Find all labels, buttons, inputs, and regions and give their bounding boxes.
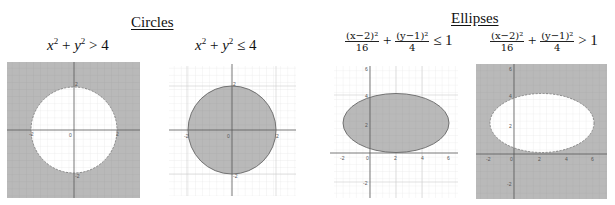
tick-label: 2 bbox=[75, 81, 78, 87]
tick-label: 0 bbox=[510, 156, 513, 162]
denominator: 16 bbox=[490, 42, 524, 53]
tick-label: 6 bbox=[447, 155, 450, 161]
tick-label: 2 bbox=[116, 131, 119, 137]
tick-label: -2 bbox=[363, 180, 368, 186]
var-y: y bbox=[74, 37, 81, 53]
tick-label: 2 bbox=[394, 155, 397, 161]
var-y: y bbox=[222, 37, 229, 53]
ellipses-heading: Ellipses bbox=[451, 10, 499, 27]
tick-label: -2 bbox=[29, 131, 34, 137]
circle-outside-graph: 0 2 -2 -2 2 bbox=[7, 62, 140, 198]
ellipse-inside-graph: -2 0 2 4 6 6 4 2 -2 bbox=[330, 64, 460, 200]
denominator: 16 bbox=[345, 42, 379, 53]
tick-label: 2 bbox=[276, 133, 279, 139]
tick-label: -2 bbox=[507, 181, 512, 187]
tick-label: 2 bbox=[233, 81, 236, 87]
equation-circle-outside: x2 + y2 > 4 bbox=[47, 36, 109, 54]
tick-label: 6 bbox=[365, 66, 368, 72]
tick-label: 6 bbox=[591, 156, 594, 162]
var-x: x bbox=[195, 37, 202, 53]
equation-ellipse-inside: (x−2)²16 + (y−1)²4 ≤ 1 bbox=[345, 30, 453, 53]
numerator: (x−2)² bbox=[345, 30, 379, 42]
operator: > 1 bbox=[578, 32, 598, 48]
tick-label: -2 bbox=[75, 173, 80, 179]
plus: + bbox=[58, 37, 74, 53]
operator: ≤ 4 bbox=[233, 37, 256, 53]
fraction-x: (x−2)²16 bbox=[490, 30, 524, 53]
shaded-region bbox=[476, 64, 607, 199]
tick-label: 2 bbox=[365, 122, 368, 128]
operator: > 4 bbox=[85, 37, 108, 53]
numerator: (x−2)² bbox=[490, 30, 524, 42]
circles-heading: Circles bbox=[131, 14, 174, 31]
numerator: (y−1)² bbox=[395, 30, 429, 42]
equation-circle-inside: x2 + y2 ≤ 4 bbox=[195, 36, 257, 54]
ellipse-outside-graph: -2 0 2 4 6 6 4 2 -2 bbox=[476, 64, 607, 199]
tick-label: -2 bbox=[184, 133, 189, 139]
plus: + bbox=[206, 37, 222, 53]
fraction-y: (y−1)²4 bbox=[395, 30, 429, 53]
var-x: x bbox=[47, 37, 54, 53]
equation-ellipse-outside: (x−2)²16 + (y−1)²4 > 1 bbox=[490, 30, 598, 53]
tick-label: 2 bbox=[509, 123, 512, 129]
denominator: 4 bbox=[395, 42, 429, 53]
fraction-y: (y−1)²4 bbox=[540, 30, 574, 53]
denominator: 4 bbox=[540, 42, 574, 53]
tick-label: 4 bbox=[365, 93, 368, 99]
fraction-x: (x−2)²16 bbox=[345, 30, 379, 53]
numerator: (y−1)² bbox=[540, 30, 574, 42]
origin-label: 0 bbox=[69, 132, 72, 138]
tick-label: 2 bbox=[538, 156, 541, 162]
tick-label: 0 bbox=[366, 155, 369, 161]
origin-label: 0 bbox=[227, 133, 230, 139]
tick-label: 4 bbox=[565, 156, 568, 162]
tick-label: 4 bbox=[509, 93, 512, 99]
plus: + bbox=[528, 32, 536, 48]
circle-inside-graph: 0 2 -2 -2 2 bbox=[165, 62, 300, 198]
tick-label: 6 bbox=[509, 66, 512, 72]
tick-label: 4 bbox=[421, 155, 424, 161]
plus: + bbox=[383, 32, 391, 48]
tick-label: -2 bbox=[340, 155, 345, 161]
tick-label: -2 bbox=[233, 173, 238, 179]
operator: ≤ 1 bbox=[433, 32, 452, 48]
tick-label: -2 bbox=[486, 156, 491, 162]
